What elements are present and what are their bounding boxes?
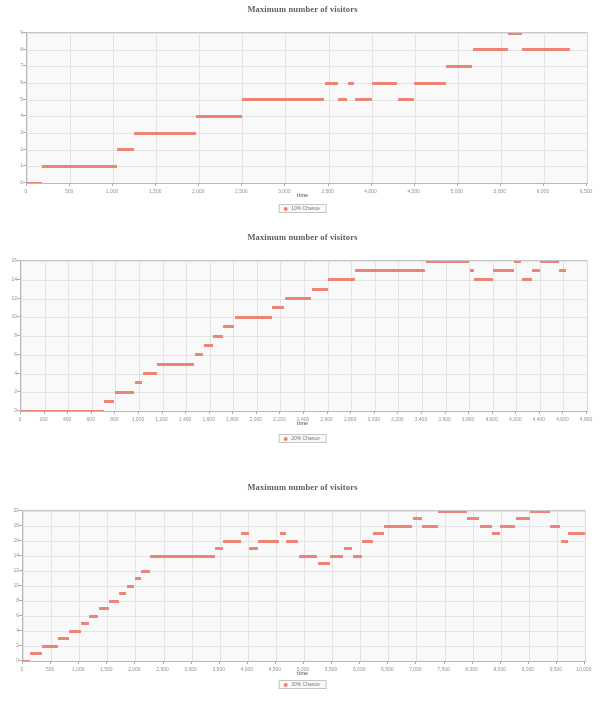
data-marker bbox=[109, 600, 118, 603]
x-axis-tick-mark bbox=[256, 411, 257, 414]
chart-1-plot-area bbox=[26, 32, 588, 184]
gridline-horizontal bbox=[21, 374, 587, 375]
gridline-vertical bbox=[113, 33, 114, 183]
gridline-horizontal bbox=[23, 571, 585, 572]
data-marker bbox=[325, 82, 338, 85]
y-axis-tick-mark bbox=[23, 115, 26, 116]
data-marker bbox=[413, 517, 422, 520]
chart-3-plot-area bbox=[22, 510, 586, 662]
data-marker bbox=[516, 517, 530, 520]
x-axis-tick-mark bbox=[50, 661, 51, 664]
data-marker bbox=[258, 540, 279, 543]
legend-marker-icon bbox=[283, 207, 287, 211]
x-axis-tick-mark bbox=[445, 411, 446, 414]
y-axis-tick-mark bbox=[19, 555, 22, 556]
data-marker bbox=[196, 115, 241, 118]
x-axis-tick-mark bbox=[303, 661, 304, 664]
y-axis-tick-mark bbox=[23, 99, 26, 100]
x-axis-tick-mark bbox=[492, 411, 493, 414]
chart-3-legend[interactable]: 30% Chance bbox=[278, 680, 327, 689]
data-marker bbox=[330, 555, 343, 558]
x-axis-tick-mark bbox=[414, 183, 415, 186]
legend-marker-icon bbox=[283, 437, 287, 441]
y-axis-tick-mark bbox=[17, 298, 20, 299]
data-marker bbox=[242, 98, 324, 101]
gridline-vertical bbox=[458, 33, 459, 183]
data-marker bbox=[473, 48, 508, 51]
gridline-horizontal bbox=[21, 392, 587, 393]
y-axis-tick-mark bbox=[19, 615, 22, 616]
y-axis-tick-mark bbox=[23, 165, 26, 166]
y-axis-tick-mark bbox=[23, 149, 26, 150]
x-axis-tick-mark bbox=[350, 411, 351, 414]
chart-1-title: Maximum number of visitors bbox=[0, 0, 605, 16]
data-marker bbox=[213, 335, 222, 338]
y-axis-tick-mark bbox=[19, 525, 22, 526]
x-axis-tick-mark bbox=[359, 661, 360, 664]
gridline-vertical bbox=[199, 33, 200, 183]
data-marker bbox=[470, 269, 474, 272]
data-marker bbox=[286, 540, 298, 543]
data-marker bbox=[508, 32, 521, 35]
y-axis-tick-mark bbox=[23, 132, 26, 133]
gridline-vertical bbox=[70, 33, 71, 183]
x-axis-tick-mark bbox=[69, 183, 70, 186]
data-marker bbox=[115, 391, 134, 394]
x-axis-tick-mark bbox=[303, 411, 304, 414]
chart-1-legend[interactable]: 10% Chance bbox=[278, 204, 327, 213]
data-marker bbox=[446, 65, 472, 68]
gridline-horizontal bbox=[23, 661, 585, 662]
data-marker bbox=[117, 148, 134, 151]
gridline-horizontal bbox=[27, 150, 587, 151]
gridline-horizontal bbox=[23, 631, 585, 632]
data-marker bbox=[355, 98, 372, 101]
data-marker bbox=[384, 525, 412, 528]
chart-3-plot-wrapper: 02468101214161820 05001,0001,5002,0002,5… bbox=[0, 494, 605, 682]
data-marker bbox=[398, 98, 414, 101]
data-marker bbox=[561, 540, 569, 543]
data-marker bbox=[492, 532, 500, 535]
gridline-vertical bbox=[587, 261, 588, 411]
data-marker bbox=[42, 165, 117, 168]
x-axis-tick-mark bbox=[472, 661, 473, 664]
y-axis-tick-mark bbox=[19, 570, 22, 571]
x-axis-tick-mark bbox=[279, 411, 280, 414]
data-marker bbox=[143, 372, 157, 375]
data-marker bbox=[312, 288, 328, 291]
gridline-vertical bbox=[501, 33, 502, 183]
chart-2-title: Maximum number of visitors bbox=[0, 228, 605, 244]
data-marker bbox=[42, 645, 58, 648]
data-marker bbox=[422, 525, 437, 528]
data-marker bbox=[81, 622, 89, 625]
x-axis-tick-mark bbox=[134, 661, 135, 664]
data-marker bbox=[338, 98, 347, 101]
x-axis-tick-mark bbox=[515, 411, 516, 414]
data-marker bbox=[318, 562, 330, 565]
y-axis-tick-mark bbox=[17, 316, 20, 317]
data-marker bbox=[493, 269, 514, 272]
data-marker bbox=[30, 652, 42, 655]
data-marker bbox=[215, 547, 223, 550]
data-marker bbox=[522, 278, 532, 281]
x-axis-tick-mark bbox=[562, 411, 563, 414]
y-axis-tick-mark bbox=[19, 585, 22, 586]
chart-2-plot-area bbox=[20, 260, 588, 412]
x-axis-tick-mark bbox=[500, 661, 501, 664]
gridline-horizontal bbox=[21, 411, 587, 412]
x-axis-tick-mark bbox=[44, 411, 45, 414]
data-marker bbox=[99, 607, 109, 610]
data-marker bbox=[530, 510, 550, 513]
data-marker bbox=[69, 630, 81, 633]
x-axis-tick-mark bbox=[138, 411, 139, 414]
data-marker bbox=[223, 325, 234, 328]
y-axis-tick-mark bbox=[19, 600, 22, 601]
data-marker bbox=[134, 132, 196, 135]
x-axis-tick-mark bbox=[586, 411, 587, 414]
chart-2-legend[interactable]: 20% Chance bbox=[278, 434, 327, 443]
x-axis-tick-mark bbox=[209, 411, 210, 414]
x-axis-tick-mark bbox=[586, 183, 587, 186]
data-marker bbox=[355, 269, 425, 272]
chart-2-legend-label: 20% Chance bbox=[291, 436, 320, 441]
data-marker bbox=[426, 260, 469, 263]
data-marker bbox=[568, 532, 585, 535]
